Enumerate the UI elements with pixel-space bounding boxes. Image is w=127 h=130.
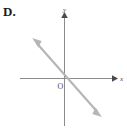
plotted-line [37, 44, 97, 112]
x-axis-label: x [119, 75, 124, 83]
origin-label: O [58, 82, 64, 91]
multiple-choice-figure: D. y x O [0, 0, 127, 130]
coordinate-graph: y x O [0, 0, 127, 130]
x-axis-arrow-icon [112, 75, 118, 82]
y-axis-label: y [62, 6, 67, 14]
